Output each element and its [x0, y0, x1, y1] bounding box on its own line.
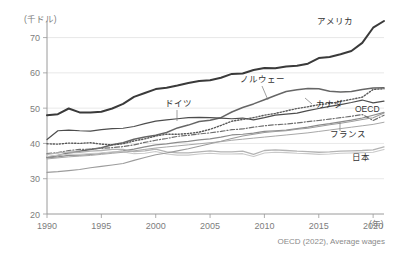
y-axis-unit-label: (千ドル)	[24, 14, 57, 24]
x-tick-label: 1995	[91, 221, 111, 231]
x-axis-unit-label: (年)	[369, 219, 384, 229]
chart-canvas: 203040506070 199019952000200520102015202…	[0, 0, 393, 259]
x-tick-label: 2015	[309, 221, 329, 231]
series-label-norway: ノルウェー	[240, 74, 285, 84]
y-tick-label: 20	[30, 210, 40, 220]
y-axis-ticks: 203040506070	[30, 33, 47, 219]
x-tick-label: 2010	[254, 221, 274, 231]
wage-line-chart: 203040506070 199019952000200520102015202…	[0, 0, 393, 259]
y-tick-label: 40	[30, 139, 40, 149]
x-tick-label: 2000	[146, 221, 166, 231]
x-tick-label: 1990	[37, 221, 57, 231]
y-tick-label: 30	[30, 174, 40, 184]
series-label-canada: カナダ	[316, 99, 343, 109]
series-lines	[47, 21, 384, 172]
series-label-france: フランス	[330, 129, 366, 139]
y-tick-label: 50	[30, 104, 40, 114]
x-tick-label: 2005	[200, 221, 220, 231]
series-label-america: アメリカ	[317, 16, 353, 26]
series-label-germany: ドイツ	[165, 98, 192, 108]
series-label-oecd: OECD	[355, 104, 380, 114]
series-line-イタリア	[47, 113, 384, 172]
source-attribution: OECD (2022), Average wages	[278, 237, 385, 246]
annotation-leader-line	[262, 86, 268, 100]
x-axis-ticks: 1990199520002005201020152020	[37, 214, 383, 231]
annotation-leader-line	[305, 98, 312, 104]
series-label-japan: 日本	[352, 152, 370, 162]
y-tick-label: 70	[30, 33, 40, 43]
y-tick-label: 60	[30, 68, 40, 78]
